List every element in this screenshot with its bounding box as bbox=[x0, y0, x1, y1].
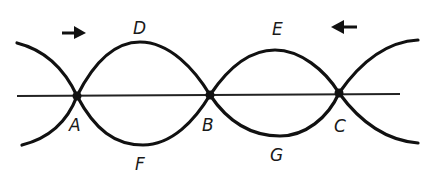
arrow-left-icon bbox=[331, 20, 357, 34]
label-e: E bbox=[272, 19, 283, 39]
node-b-dot bbox=[206, 91, 215, 100]
label-a: A bbox=[68, 115, 81, 135]
label-d: D bbox=[133, 18, 146, 38]
lower-wave-curve bbox=[22, 93, 418, 145]
node-c-dot bbox=[335, 89, 344, 98]
label-f: F bbox=[135, 154, 145, 174]
label-g: G bbox=[270, 145, 283, 165]
arrow-right-icon bbox=[62, 26, 86, 39]
standing-wave-diagram: D E A B C F G bbox=[0, 0, 429, 193]
label-b: B bbox=[202, 115, 214, 135]
upper-wave-curve bbox=[17, 40, 418, 96]
node-a-dot bbox=[73, 92, 82, 101]
label-c: C bbox=[334, 116, 346, 136]
